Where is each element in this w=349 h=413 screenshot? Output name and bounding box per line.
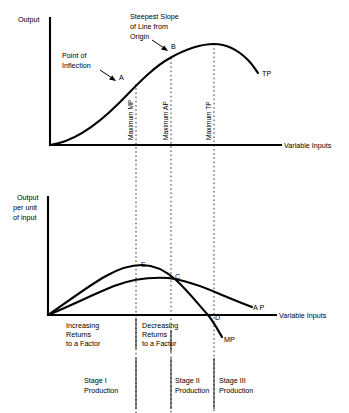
stage-1-label-line2: Production (84, 386, 118, 395)
ap-curve (48, 278, 252, 315)
decreasing-returns-line2: Returns (142, 330, 168, 339)
maximum-mp-label: Maximum MP (127, 99, 134, 140)
top-panel-x-axis-label: Variable Inputs (284, 141, 332, 150)
total-product-panel: Output Variable Inputs Point of Inflecti… (18, 12, 332, 413)
increasing-returns-line1: Increasing (66, 321, 99, 330)
steepest-slope-label-line1: Steepest Slope (130, 12, 179, 21)
stage-2-label-line2: Production (175, 386, 209, 395)
point-b-label: B (171, 42, 176, 51)
point-of-inflection-label-line1: Point of (62, 51, 86, 60)
point-c-label: C (175, 272, 180, 281)
tp-curve-label: TP (262, 69, 271, 78)
stage-1-label-line1: Stage I (84, 376, 107, 385)
production-function-diagram: Output Variable Inputs Point of Inflecti… (0, 0, 349, 413)
decreasing-returns-line1: Decreasing (142, 321, 178, 330)
top-panel-y-axis-label: Output (18, 15, 40, 24)
point-a-label: A (119, 73, 124, 82)
bottom-panel-y-axis-label-line2: per unit (13, 203, 37, 212)
bottom-panel-y-axis-label-line3: of input (13, 213, 37, 222)
stage-3-label-line1: Stage III (219, 376, 246, 385)
maximum-tp-label: Maximum TP (205, 101, 212, 140)
bottom-panel-x-axis-label: Variable Inputs (279, 311, 327, 320)
point-e-label: E (141, 260, 146, 269)
maximum-ap-label: Maximum AP (162, 101, 169, 140)
increasing-returns-line2: Returns (66, 330, 92, 339)
steepest-slope-label-line2: of Line from (130, 22, 168, 31)
steepest-slope-label-line3: Origin (130, 32, 149, 41)
stage-3-label-line2: Production (219, 386, 253, 395)
ap-curve-label: A P (253, 303, 264, 312)
stage-2-label-line1: Stage II (175, 376, 200, 385)
average-marginal-product-panel: Output per unit of input Variable Inputs… (13, 193, 327, 409)
mp-curve-label: MP (224, 335, 235, 344)
decreasing-returns-line3: to a Factor (142, 339, 177, 348)
bottom-panel-y-axis-label-line1: Output (17, 193, 39, 202)
point-of-inflection-label-line2: Inflection (62, 61, 91, 70)
increasing-returns-line3: to a Factor (66, 339, 101, 348)
point-d-label: D (215, 313, 220, 322)
